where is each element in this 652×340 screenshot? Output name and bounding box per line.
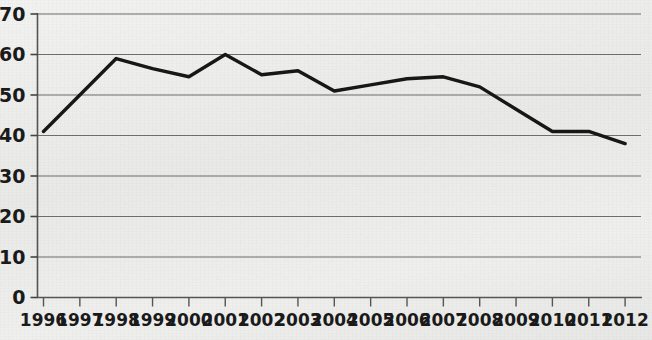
x-axis-ticks xyxy=(44,298,626,307)
gridlines xyxy=(38,14,642,257)
y-tick-label: 50 xyxy=(0,84,26,106)
chart-canvas: 010203040506070 199619971998199920002001… xyxy=(0,0,652,340)
series-line xyxy=(44,55,626,144)
y-tick-label: 70 xyxy=(0,3,26,25)
y-tick-label: 10 xyxy=(0,246,26,268)
x-axis-tick-labels: 1996199719981999200020012002200320042005… xyxy=(20,310,649,330)
y-tick-label: 20 xyxy=(0,205,26,227)
y-tick-label: 60 xyxy=(0,43,26,65)
y-axis-tick-labels: 010203040506070 xyxy=(0,3,26,309)
y-tick-label: 30 xyxy=(0,165,26,187)
line-chart-figure: 010203040506070 199619971998199920002001… xyxy=(0,0,652,340)
y-tick-label: 0 xyxy=(12,286,25,308)
data-series xyxy=(44,55,626,144)
y-axis-ticks xyxy=(31,14,38,298)
y-tick-label: 40 xyxy=(0,124,26,146)
x-tick-label: 2012 xyxy=(601,310,648,330)
